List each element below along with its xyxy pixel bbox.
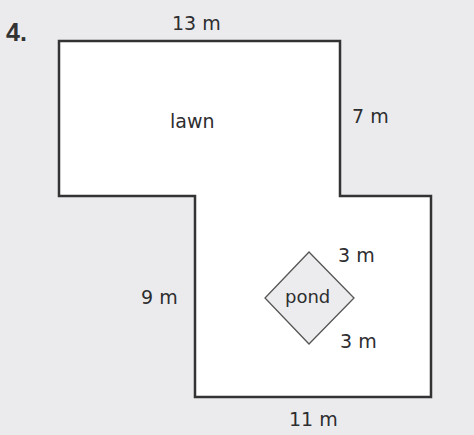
label-pond-3m-top: 3 m bbox=[338, 246, 375, 265]
label-right-7m: 7 m bbox=[352, 107, 389, 126]
label-pond: pond bbox=[285, 288, 330, 306]
label-pond-3m-bottom: 3 m bbox=[340, 332, 377, 351]
diagram-canvas bbox=[0, 0, 474, 435]
problem-number: 4. bbox=[6, 18, 27, 47]
label-bottom-11m: 11 m bbox=[289, 410, 338, 429]
label-top-13m: 13 m bbox=[172, 14, 221, 33]
label-left-9m: 9 m bbox=[141, 288, 178, 307]
label-lawn: lawn bbox=[170, 112, 215, 131]
